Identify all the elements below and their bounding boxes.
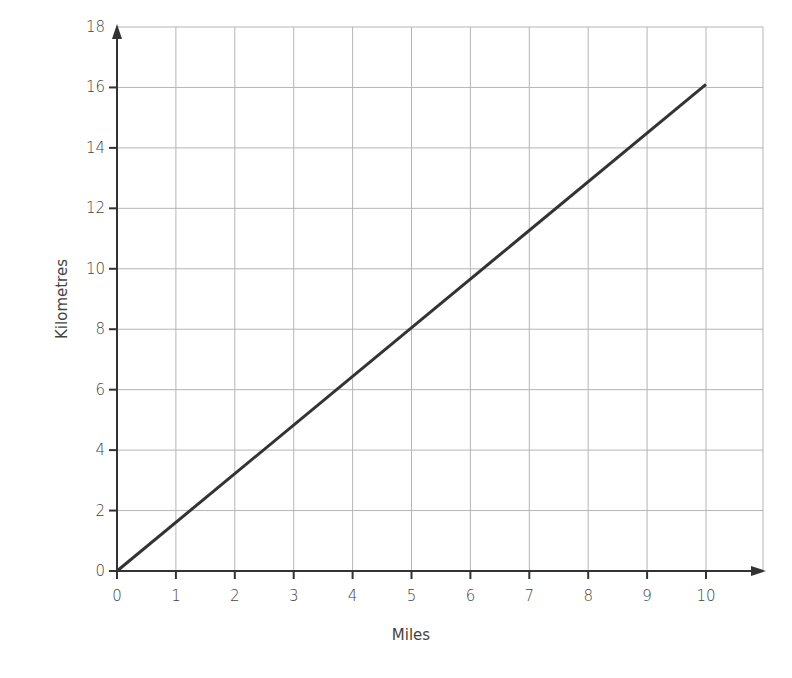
x-tick-label: 5 xyxy=(407,587,417,605)
y-axis: 024681012141618 xyxy=(86,18,122,580)
y-tick-label: 12 xyxy=(86,199,105,217)
y-tick-label: 4 xyxy=(95,441,105,459)
y-tick-label: 14 xyxy=(86,139,105,157)
y-axis-title: Kilometres xyxy=(53,259,71,339)
y-tick-label: 6 xyxy=(95,381,105,399)
x-tick-label: 9 xyxy=(642,587,652,605)
x-tick-label: 7 xyxy=(525,587,535,605)
y-tick-label: 2 xyxy=(95,502,105,520)
x-axis-arrow-icon xyxy=(751,566,766,576)
x-tick-label: 3 xyxy=(289,587,299,605)
x-tick-label: 2 xyxy=(230,587,240,605)
y-tick-label: 18 xyxy=(86,18,105,36)
x-tick-label: 10 xyxy=(696,587,715,605)
y-tick-label: 0 xyxy=(95,562,105,580)
y-tick-label: 10 xyxy=(86,260,105,278)
y-tick-label: 16 xyxy=(86,78,105,96)
x-axis: 012345678910 xyxy=(112,566,766,605)
x-tick-label: 4 xyxy=(348,587,358,605)
y-tick-label: 8 xyxy=(95,320,105,338)
y-axis-arrow-icon xyxy=(112,24,122,39)
x-axis-title: Miles xyxy=(392,626,431,644)
x-tick-label: 8 xyxy=(583,587,593,605)
x-tick-label: 6 xyxy=(466,587,476,605)
x-tick-label: 0 xyxy=(112,587,122,605)
x-tick-label: 1 xyxy=(171,587,181,605)
chart: 012345678910 024681012141618 Miles Kilom… xyxy=(0,0,792,678)
